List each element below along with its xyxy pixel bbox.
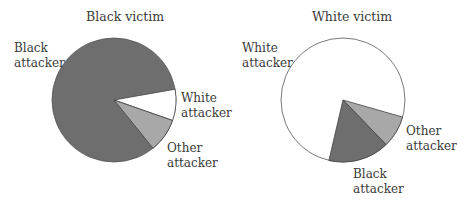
- label-white-attacker: White attacker: [181, 91, 232, 121]
- pie-chart-white-victim: White victim White attacker Other attack…: [228, 0, 456, 205]
- label-other-attacker: Other attacker: [167, 141, 218, 171]
- label-white-attacker: White attacker: [242, 41, 293, 71]
- label-other-attacker: Other attacker: [406, 124, 457, 154]
- pie-chart-black-victim: Black victim Black attacker White attack…: [0, 0, 228, 205]
- pie-white-victim: [228, 0, 456, 205]
- label-black-attacker: Black attacker: [353, 167, 404, 197]
- label-black-attacker: Black attacker: [14, 41, 65, 71]
